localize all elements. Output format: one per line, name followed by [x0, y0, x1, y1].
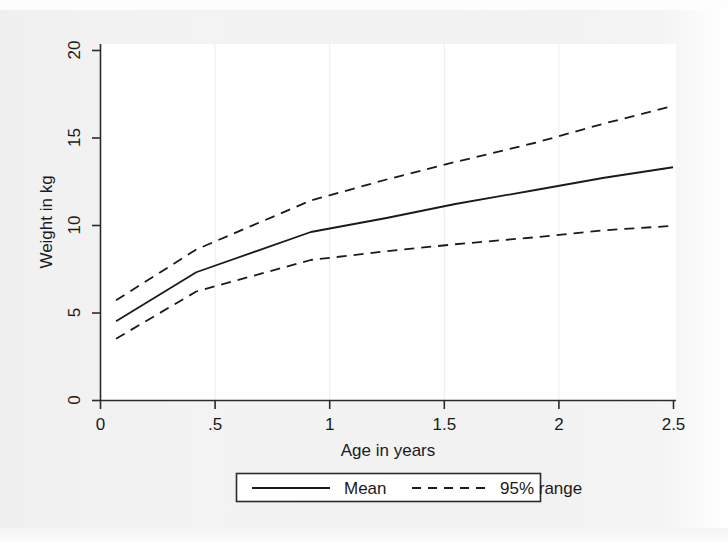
y-axis-ticks [92, 51, 100, 401]
y-axis-tick-labels: 05101520 [65, 41, 84, 405]
chart-legend: Mean 95% range [237, 474, 583, 502]
x-tick-label: 2 [554, 415, 563, 434]
y-tick-label: 0 [65, 395, 84, 404]
x-tick-label: 2.5 [662, 415, 686, 434]
y-tick-label: 5 [65, 308, 84, 317]
y-tick-label: 20 [65, 41, 84, 60]
x-axis-tick-labels: 0.511.522.5 [96, 415, 686, 434]
legend-label-95-range: 95% range [500, 479, 582, 498]
x-axis-ticks [101, 400, 674, 409]
x-tick-label: 1 [325, 415, 334, 434]
x-tick-label: 0 [96, 415, 105, 434]
y-tick-label: 10 [65, 216, 84, 235]
x-tick-label: 1.5 [432, 415, 456, 434]
plot-panel [100, 44, 676, 400]
chart-page: 05101520 0.511.522.5 Weight in kg Age in… [0, 0, 728, 542]
legend-label-mean: Mean [344, 479, 387, 498]
x-tick-label: .5 [208, 415, 222, 434]
x-axis-title: Age in years [341, 441, 436, 460]
y-tick-label: 15 [65, 128, 84, 147]
weight-for-age-chart: 05101520 0.511.522.5 Weight in kg Age in… [0, 0, 728, 542]
y-axis-title: Weight in kg [37, 175, 56, 268]
